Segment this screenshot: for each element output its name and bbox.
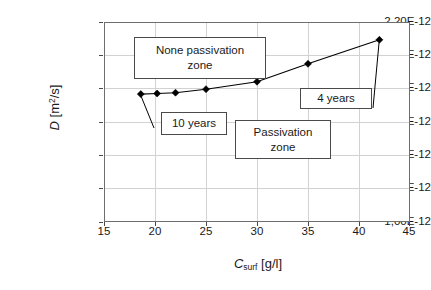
x-tick-label: 20 bbox=[135, 226, 175, 238]
y-axis-tick bbox=[99, 155, 103, 156]
x-axis-symbol: C bbox=[234, 256, 243, 271]
x-tick-label: 35 bbox=[288, 226, 328, 238]
annotation-line-1: Passivation bbox=[254, 125, 313, 140]
annotation-four-years: 4 years bbox=[300, 88, 372, 109]
annotation-ten-years: 10 years bbox=[161, 112, 227, 135]
annotation-line-2: zone bbox=[188, 58, 213, 73]
y-axis-tick bbox=[99, 122, 103, 123]
x-tick-label: 45 bbox=[389, 226, 429, 238]
annotation-line-1: 10 years bbox=[172, 116, 216, 131]
x-axis-title: Csurf [g/l] bbox=[105, 256, 411, 272]
x-tick-label: 30 bbox=[237, 226, 277, 238]
y-axis-tick bbox=[99, 188, 103, 189]
x-tick-label: 25 bbox=[186, 226, 226, 238]
y-axis-tick bbox=[99, 22, 103, 23]
annotation-passivation-zone: Passivation zone bbox=[235, 120, 331, 159]
annotation-line-2: zone bbox=[271, 140, 296, 155]
y-axis-unit-base: [m bbox=[47, 103, 62, 117]
y-axis-tick bbox=[99, 55, 103, 56]
annotation-line-1: 4 years bbox=[317, 91, 355, 106]
y-axis-symbol: D bbox=[47, 121, 62, 130]
x-axis-units: [g/l] bbox=[261, 256, 282, 271]
x-axis-subscript: surf bbox=[243, 262, 257, 272]
y-axis-tick bbox=[99, 222, 103, 223]
y-axis-title: D [m2/s] bbox=[47, 48, 62, 168]
x-tick-label: 15 bbox=[84, 226, 124, 238]
y-axis-unit-tail: /s] bbox=[47, 85, 62, 99]
annotation-none-passivation-zone: None passivation zone bbox=[134, 37, 266, 79]
y-axis-unit-exponent: 2 bbox=[47, 98, 57, 103]
chart-figure: 2,20E-12 2,00E-12 1,80E-12 1,60E-12 1,40… bbox=[0, 0, 431, 290]
x-tick-label: 40 bbox=[339, 226, 379, 238]
gridline-vertical bbox=[359, 23, 360, 221]
y-axis-tick bbox=[99, 88, 103, 89]
annotation-line-1: None passivation bbox=[156, 43, 244, 58]
